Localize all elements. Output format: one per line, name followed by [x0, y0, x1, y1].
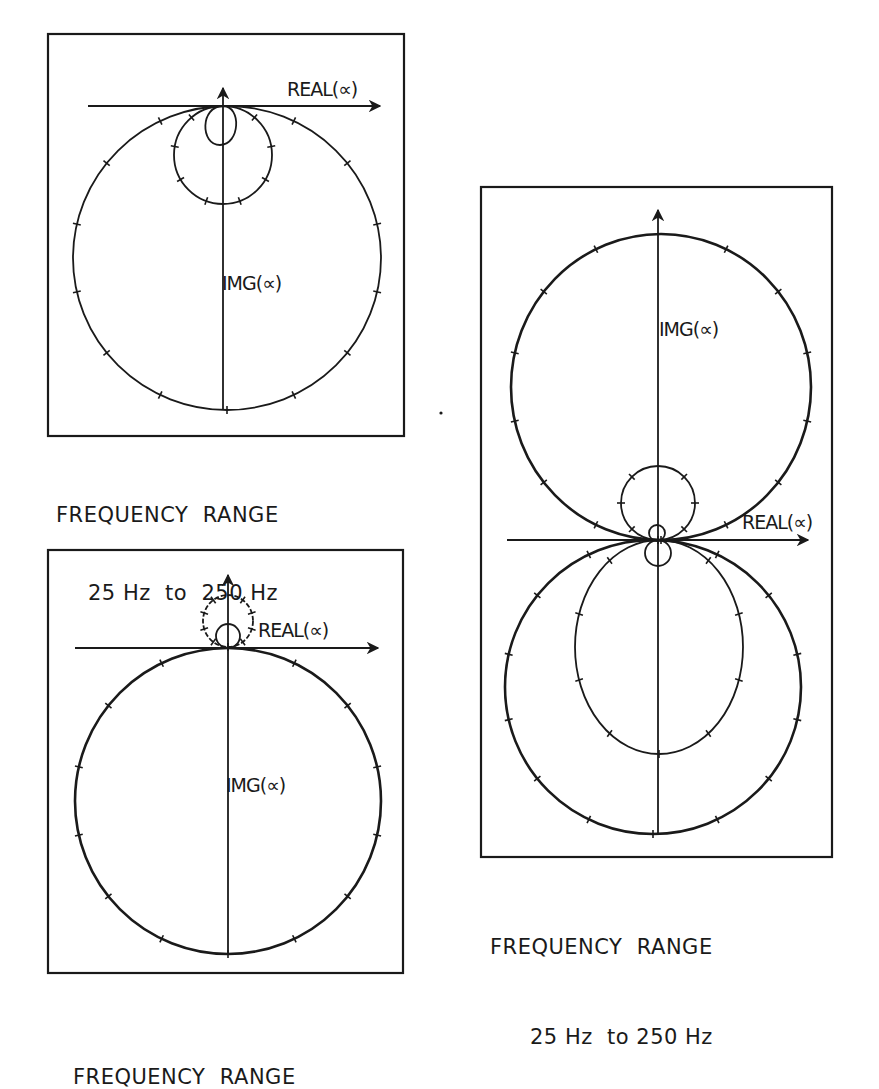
frequency-tick — [75, 766, 83, 768]
caption-title: FREQUENCY RANGE — [56, 502, 279, 528]
caption-title: FREQUENCY RANGE — [490, 932, 713, 962]
frequency-tick — [73, 223, 81, 225]
panel-right: REAL(∝) IMG(∝) — [481, 187, 832, 857]
frequency-tick — [505, 653, 513, 655]
caption-top-left: FREQUENCY RANGE 25 Hz to 250 Hz — [56, 450, 279, 632]
real-axis-label: REAL(∝) — [287, 78, 357, 100]
panel-top-left: REAL(∝) IMG(∝) — [48, 34, 404, 436]
large-locus — [73, 106, 381, 410]
imag-axis-label: IMG(∝) — [226, 774, 285, 796]
frequency-tick — [75, 834, 83, 836]
frequency-tick — [803, 352, 811, 354]
imag-axis-label: IMG(∝) — [659, 318, 718, 340]
caption-title: FREQUENCY RANGE — [73, 1059, 297, 1089]
upper-large-locus — [511, 234, 811, 540]
frequency-tick — [505, 719, 513, 721]
tiny-upper-locus — [649, 525, 665, 541]
frequency-tick — [793, 653, 801, 655]
lower-medium-locus — [575, 540, 743, 754]
frequency-tick — [373, 291, 381, 293]
stray-mark — [439, 411, 442, 414]
frequency-tick — [511, 352, 519, 354]
lower-large-locus — [505, 540, 801, 834]
frequency-ticks — [73, 114, 381, 414]
imag-axis-label: IMG(∝) — [222, 272, 281, 294]
frequency-tick — [373, 834, 381, 836]
real-axis-label: REAL(∝) — [742, 511, 812, 533]
frequency-tick — [171, 146, 179, 147]
frequency-tick — [373, 223, 381, 225]
caption-bottom-left: FREQUENCY RANGE 25 Hz to 250 Hz — [73, 987, 297, 1089]
frequency-tick — [803, 420, 811, 422]
caption-range: 25 Hz to 250 Hz — [56, 580, 279, 606]
frequency-tick — [267, 146, 275, 147]
caption-right: FREQUENCY RANGE 25 Hz to 250 Hz — [490, 872, 713, 1082]
frequency-tick — [793, 719, 801, 721]
caption-range: 25 Hz to 250 Hz — [490, 1022, 713, 1052]
frequency-tick — [373, 766, 381, 768]
frequency-tick — [73, 291, 81, 293]
frequency-tick — [511, 420, 519, 422]
small-locus — [205, 106, 236, 145]
